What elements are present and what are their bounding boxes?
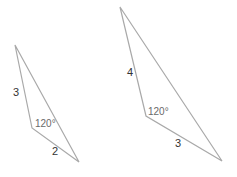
triangle-1-side-b-label: 2 [52, 145, 58, 157]
triangle-2-side-b-label: 3 [175, 137, 181, 149]
diagram-canvas: 3 2 120° 4 3 120° [0, 0, 237, 177]
triangle-1: 3 2 120° [13, 45, 79, 162]
triangle-1-angle-label: 120° [35, 118, 56, 129]
triangle-2-angle-label: 120° [148, 106, 169, 117]
triangle-1-side-a-label: 3 [13, 86, 19, 98]
triangle-2-outline [120, 7, 222, 161]
triangle-2: 4 3 120° [120, 7, 222, 161]
triangle-2-side-a-label: 4 [127, 66, 133, 78]
triangle-1-outline [15, 45, 79, 162]
